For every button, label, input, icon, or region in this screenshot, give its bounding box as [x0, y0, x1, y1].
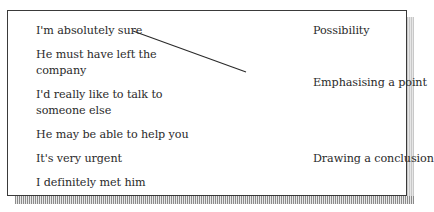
phrase-item[interactable]: It's very urgent [36, 151, 122, 167]
phrase-item[interactable]: He may be able to help you [36, 127, 189, 143]
phrase-item[interactable]: I'm absolutely sure [36, 23, 142, 39]
phrase-text: I'd really like to talk to [36, 87, 163, 103]
function-label: Possibility [313, 24, 369, 37]
matching-exercise-panel: I'm absolutely sure He must have left th… [7, 10, 407, 196]
function-item-conclusion[interactable]: Drawing a conclusion [313, 151, 434, 167]
phrase-text: He must have left the [36, 47, 157, 63]
function-label: Drawing a conclusion [313, 152, 434, 165]
phrase-text: He may be able to help you [36, 128, 189, 141]
function-item-emphasising[interactable]: Emphasising a point [313, 75, 427, 91]
phrase-text: It's very urgent [36, 152, 122, 165]
phrase-text-continued: someone else [36, 103, 163, 119]
phrase-item[interactable]: I'd really like to talk to someone else [36, 87, 163, 119]
phrase-item[interactable]: He must have left the company [36, 47, 157, 79]
phrase-text: I'm absolutely sure [36, 24, 142, 37]
function-label: Emphasising a point [313, 76, 427, 89]
phrase-text-continued: company [36, 63, 157, 79]
function-item-possibility[interactable]: Possibility [313, 23, 369, 39]
phrase-text: I definitely met him [36, 176, 146, 189]
phrase-item[interactable]: I definitely met him [36, 175, 146, 191]
panel-shadow-right [407, 17, 414, 204]
panel-shadow-bottom [15, 196, 414, 204]
